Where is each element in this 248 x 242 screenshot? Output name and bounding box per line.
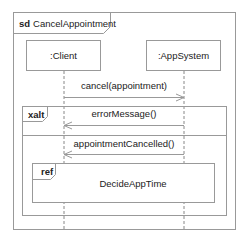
sequence-diagram: sdCancelAppointment :Client :AppSystem c… [0, 0, 248, 242]
message-cancel[interactable]: cancel(appointment) [64, 80, 184, 101]
ref-name: DecideAppTime [99, 178, 166, 189]
message-appointment-cancelled-label: appointmentCancelled() [74, 138, 175, 149]
ref-keyword: ref [41, 166, 54, 177]
sd-frame-title: sdCancelAppointment [19, 18, 116, 29]
sd-keyword: sd [19, 18, 30, 29]
lifeline-appsystem-label: :AppSystem [158, 50, 209, 61]
lifeline-client-label: :Client [50, 50, 77, 61]
sd-name: CancelAppointment [33, 18, 116, 29]
xalt-keyword: xalt [28, 109, 45, 120]
message-error-label: errorMessage() [92, 108, 157, 119]
message-cancel-label: cancel(appointment) [81, 80, 167, 91]
message-appointment-cancelled[interactable]: appointmentCancelled() [64, 138, 184, 158]
ref-decide-app-time[interactable]: ref DecideAppTime [33, 164, 215, 203]
message-error[interactable]: errorMessage() [64, 108, 184, 129]
